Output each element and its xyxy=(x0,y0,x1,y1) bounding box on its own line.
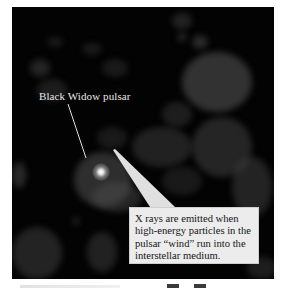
cropped-mark xyxy=(167,284,179,288)
astronomical-image: Black Widow pulsar X rays are emitted wh… xyxy=(12,7,274,279)
cropped-mark xyxy=(194,284,206,288)
callout-pointer-wedge xyxy=(113,149,175,207)
callout-line: interstellar medium. xyxy=(135,250,254,262)
callout-line: high-energy particles in the xyxy=(135,225,254,237)
callout-line: pulsar “wind” run into the xyxy=(135,238,254,250)
callout-box: X rays are emitted when high-energy part… xyxy=(129,207,259,264)
callout-line: X rays are emitted when xyxy=(135,213,254,225)
label-pointer-line xyxy=(68,104,86,158)
